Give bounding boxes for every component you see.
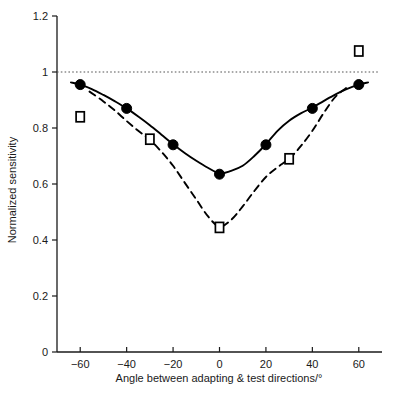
x-tick-label-6: 60: [353, 358, 365, 370]
marker-filled-circles-2: [168, 140, 178, 150]
marker-open-squares-0: [76, 112, 84, 122]
y-tick-label-3: 0.6: [33, 178, 48, 190]
chart-figure: 00.20.40.60.811.2 −60−40−200204060 Angle…: [0, 0, 396, 396]
y-tick-label-2: 0.4: [33, 234, 48, 246]
marker-filled-circles-5: [307, 103, 317, 113]
normalized-sensitivity-plot: 00.20.40.60.811.2 −60−40−200204060 Angle…: [0, 0, 396, 396]
marker-filled-circles-0: [75, 80, 85, 90]
x-tick-label-2: −20: [164, 358, 183, 370]
x-tick-label-1: −40: [117, 358, 136, 370]
y-tick-label-0: 0: [42, 346, 48, 358]
marker-filled-circles-6: [354, 80, 364, 90]
y-tick-label-5: 1: [42, 66, 48, 78]
x-tick-label-0: −60: [71, 358, 90, 370]
marker-filled-circles-3: [215, 169, 225, 179]
y-tick-label-4: 0.8: [33, 122, 48, 134]
x-tick-label-4: 20: [260, 358, 272, 370]
y-tick-label-6: 1.2: [33, 10, 48, 22]
x-axis-title: Angle between adapting & test directions…: [116, 372, 323, 384]
marker-open-squares-3: [285, 154, 293, 164]
marker-open-squares-4: [355, 46, 363, 56]
x-tick-label-3: 0: [216, 358, 222, 370]
marker-open-squares-1: [146, 134, 154, 144]
y-tick-label-1: 0.2: [33, 290, 48, 302]
marker-filled-circles-1: [122, 103, 132, 113]
y-axis-title: Normalized sensitivity: [6, 136, 18, 243]
marker-open-squares-2: [215, 222, 223, 232]
plot-background: [0, 0, 396, 396]
x-tick-label-5: 40: [306, 358, 318, 370]
marker-filled-circles-4: [261, 140, 271, 150]
